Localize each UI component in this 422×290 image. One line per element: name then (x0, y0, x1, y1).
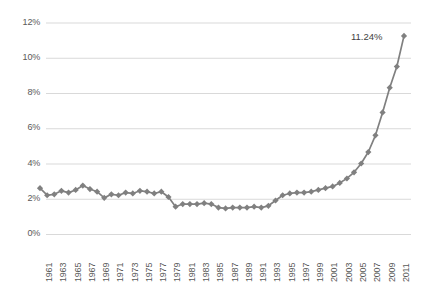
x-axis-tick-label: 1977 (158, 263, 168, 282)
data-point-marker (151, 190, 157, 196)
y-axis-tick-label: 10% (0, 52, 40, 62)
x-axis-tick-label: 1987 (230, 263, 240, 282)
x-axis-tick-label: 1979 (172, 263, 182, 282)
data-point-marker (208, 201, 214, 207)
data-point-marker (387, 85, 393, 91)
gridlines-group (46, 23, 411, 235)
x-axis-tick-label: 1961 (44, 263, 54, 282)
data-point-marker (258, 204, 264, 210)
data-point-marker (244, 204, 250, 210)
x-axis-tick-label: 2011 (401, 263, 411, 282)
data-point-marker (379, 109, 385, 115)
data-series-line (40, 36, 404, 209)
data-point-marker (180, 201, 186, 207)
x-axis-tick-label: 1973 (130, 263, 140, 282)
data-point-marker (51, 191, 57, 197)
data-point-marker (130, 190, 136, 196)
data-point-marker (287, 190, 293, 196)
x-axis-tick-label: 2009 (387, 263, 397, 282)
x-axis-tick-label: 1991 (258, 263, 268, 282)
data-point-marker (301, 189, 307, 195)
data-point-marker (65, 189, 71, 195)
data-point-marker (144, 189, 150, 195)
x-axis-tick-label: 1969 (101, 263, 111, 282)
x-axis-tick-label: 2005 (358, 263, 368, 282)
x-axis-tick-label: 1983 (201, 263, 211, 282)
y-axis-tick-label: 0% (0, 228, 40, 238)
data-point-marker (315, 187, 321, 193)
data-point-marker (137, 188, 143, 194)
data-point-marker (294, 189, 300, 195)
data-point-marker (394, 63, 400, 69)
x-axis-tick-label: 1997 (301, 263, 311, 282)
chart-container: 0%2%4%6%8%10%12% 19611963196519671969197… (0, 0, 422, 290)
data-point-marker (230, 204, 236, 210)
x-axis-tick-label: 2007 (372, 263, 382, 282)
last-point-value: 11.24% (351, 31, 383, 42)
data-point-marker (308, 189, 314, 195)
data-point-marker (322, 185, 328, 191)
data-point-marker (222, 205, 228, 211)
data-point-marker (330, 183, 336, 189)
y-axis-tick-label: 4% (0, 158, 40, 168)
x-axis-tick-label: 1963 (58, 263, 68, 282)
x-axis-tick-label: 1999 (315, 263, 325, 282)
data-point-marker (108, 191, 114, 197)
y-axis-tick-label: 2% (0, 193, 40, 203)
x-axis-tick-label: 1965 (73, 263, 83, 282)
x-axis-tick-label: 1971 (115, 263, 125, 282)
y-axis-tick-label: 6% (0, 122, 40, 132)
x-axis-tick-label: 1985 (215, 263, 225, 282)
x-axis-tick-label: 1995 (287, 263, 297, 282)
data-point-marker (251, 204, 257, 210)
data-point-marker (58, 188, 64, 194)
data-point-marker (215, 204, 221, 210)
x-axis-tick-label: 2001 (329, 263, 339, 282)
data-point-marker (194, 201, 200, 207)
y-axis-tick-label: 12% (0, 17, 40, 27)
data-point-marker (123, 189, 129, 195)
data-point-marker (87, 186, 93, 192)
x-axis-tick-label: 1981 (187, 263, 197, 282)
x-axis-tick-label: 1989 (244, 263, 254, 282)
data-point-marker (201, 200, 207, 206)
data-point-marker (401, 33, 407, 39)
y-axis-tick-label: 8% (0, 87, 40, 97)
x-axis-tick-label: 1993 (272, 263, 282, 282)
x-axis-tick-label: 2003 (344, 263, 354, 282)
data-point-marker (237, 204, 243, 210)
x-axis-tick-label: 1975 (144, 263, 154, 282)
data-point-markers (37, 33, 407, 212)
x-axis-tick-label: 1967 (87, 263, 97, 282)
data-point-marker (115, 192, 121, 198)
data-point-marker (372, 132, 378, 138)
line-chart-plot (0, 0, 422, 290)
data-point-marker (187, 201, 193, 207)
